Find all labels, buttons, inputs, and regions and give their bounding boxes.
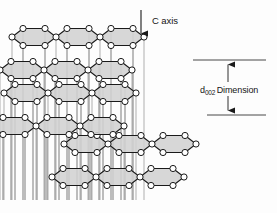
carbon-atom <box>30 58 36 64</box>
hexagon-cell <box>96 169 140 186</box>
carbon-atom <box>56 81 62 87</box>
hexagon-cell <box>4 85 48 102</box>
carbon-atom <box>110 114 116 120</box>
carbon-atom <box>130 42 136 48</box>
carbon-atom <box>82 182 88 188</box>
hexagon-cell <box>108 136 152 153</box>
hexagon-cell <box>44 62 88 79</box>
carbon-atom <box>0 67 3 73</box>
carbon-atom <box>9 34 15 40</box>
carbon-atom <box>42 25 48 31</box>
hexagon-cell <box>100 29 144 46</box>
carbon-atom <box>42 42 48 48</box>
carbon-atom <box>77 123 83 129</box>
carbon-atom <box>82 165 88 171</box>
carbon-atom <box>66 131 72 137</box>
carbon-atom <box>96 58 102 64</box>
carbon-atom <box>148 182 154 188</box>
carbon-atom <box>34 81 40 87</box>
carbon-atom <box>1 90 7 96</box>
carbon-atom <box>22 131 28 137</box>
hexagon-cell <box>92 85 136 102</box>
carbon-atom <box>181 174 187 180</box>
carbon-atom <box>0 114 6 120</box>
carbon-atom <box>96 75 102 81</box>
carbon-atom <box>122 81 128 87</box>
carbon-atom <box>8 75 14 81</box>
carbon-atom <box>108 42 114 48</box>
carbon-atom <box>130 25 136 31</box>
carbon-atom <box>74 75 80 81</box>
carbon-atom <box>0 131 6 137</box>
carbon-atom <box>49 174 55 180</box>
carbon-atom <box>44 114 50 120</box>
carbon-atom <box>52 75 58 81</box>
c-axis-label: C axis <box>152 15 178 26</box>
carbon-atom <box>160 149 166 155</box>
carbon-atom <box>97 34 103 40</box>
carbon-atom <box>129 67 135 73</box>
carbon-atom <box>160 132 166 138</box>
carbon-atom <box>74 58 80 64</box>
carbon-atom <box>110 131 116 137</box>
carbon-atom <box>104 182 110 188</box>
carbon-atom <box>94 149 100 155</box>
carbon-atom <box>88 114 94 120</box>
carbon-atom <box>56 98 62 104</box>
lattice-layer-top <box>0 25 147 81</box>
hexagon-cell <box>56 29 100 46</box>
carbon-atom <box>12 98 18 104</box>
carbon-atom <box>78 81 84 87</box>
carbon-atom <box>41 67 47 73</box>
carbon-atom <box>60 165 66 171</box>
hexagon-cell <box>0 62 44 79</box>
carbon-atom <box>105 141 111 147</box>
hexagon-cell <box>64 136 108 153</box>
carbon-atom <box>170 165 176 171</box>
carbon-atom <box>182 149 188 155</box>
carbon-atom <box>53 34 59 40</box>
hexagon-cell <box>80 118 124 135</box>
carbon-atom <box>72 149 78 155</box>
carbon-atom <box>100 98 106 104</box>
carbon-atom <box>78 98 84 104</box>
carbon-atom <box>45 90 51 96</box>
carbon-atom <box>126 165 132 171</box>
lattice-layer-middle <box>0 81 139 137</box>
carbon-atom <box>118 75 124 81</box>
lattice-diagram-svg <box>0 0 277 213</box>
carbon-atom <box>93 174 99 180</box>
carbon-atom <box>133 90 139 96</box>
carbon-atom <box>126 182 132 188</box>
carbon-atom <box>118 58 124 64</box>
carbon-atom <box>149 141 155 147</box>
carbon-atom <box>138 132 144 138</box>
carbon-atom <box>44 131 50 137</box>
hexagon-cell <box>52 169 96 186</box>
carbon-atom <box>52 58 58 64</box>
carbon-atom <box>121 123 127 129</box>
d002-subscript: 002 <box>205 89 215 96</box>
carbon-atom <box>137 174 143 180</box>
carbon-atom <box>193 141 199 147</box>
carbon-atom <box>20 25 26 31</box>
graphite-lattice-figure: C axis d002Dimension <box>0 0 277 213</box>
carbon-atom <box>22 114 28 120</box>
hexagon-cell <box>48 85 92 102</box>
carbon-atom <box>116 132 122 138</box>
carbon-atom <box>170 182 176 188</box>
carbon-atom <box>66 114 72 120</box>
carbon-atom <box>61 141 67 147</box>
carbon-atom <box>34 98 40 104</box>
carbon-atom <box>64 25 70 31</box>
carbon-atom <box>100 81 106 87</box>
hexagon-cell <box>140 169 184 186</box>
d002-dimension-label: d002Dimension <box>200 85 258 96</box>
carbon-atom <box>182 132 188 138</box>
carbon-atom <box>116 149 122 155</box>
carbon-atom <box>85 67 91 73</box>
carbon-atom <box>20 42 26 48</box>
carbon-atom <box>88 131 94 137</box>
carbon-atom <box>86 42 92 48</box>
carbon-atom <box>122 98 128 104</box>
